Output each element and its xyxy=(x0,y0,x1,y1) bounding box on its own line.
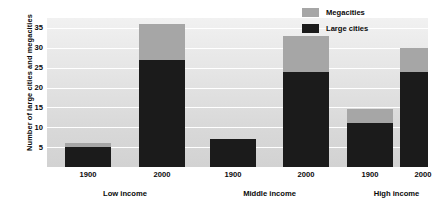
bar-segment-megacities-high-2000 xyxy=(400,48,428,72)
y-tick-35: 35 xyxy=(3,23,43,32)
x-tick-high-2000: 2000 xyxy=(398,170,436,179)
legend: Megacities Large cities xyxy=(302,8,430,40)
x-group-low-income: Low income xyxy=(80,189,170,198)
bar-segment-large-cities-low-2000 xyxy=(139,60,185,167)
bar-middle-2000 xyxy=(283,36,329,167)
bar-middle-1900 xyxy=(210,139,256,167)
legend-swatch-large-cities-icon xyxy=(302,24,319,33)
gridline-30 xyxy=(47,48,428,49)
bar-low-1900 xyxy=(65,143,111,167)
legend-item-megacities: Megacities xyxy=(302,8,430,17)
stacked-bar-chart: Number of large cities and megacities 35… xyxy=(0,0,436,211)
gridline-25 xyxy=(47,68,428,69)
bar-segment-large-cities-high-1900 xyxy=(347,123,393,167)
bar-segment-megacities-low-2000 xyxy=(139,24,185,60)
y-tick-5: 5 xyxy=(3,143,43,152)
x-axis-labels: 1900 2000 1900 2000 1900 2000 Low income… xyxy=(47,167,428,211)
y-axis-tick-labels: 35 30 25 20 15 10 5 xyxy=(0,18,45,167)
y-tick-10: 10 xyxy=(3,123,43,132)
y-tick-30: 30 xyxy=(3,43,43,52)
y-tick-20: 20 xyxy=(3,83,43,92)
bar-high-2000 xyxy=(400,48,428,167)
bar-segment-large-cities-middle-2000 xyxy=(283,72,329,167)
bar-segment-large-cities-middle-1900 xyxy=(210,139,256,167)
x-tick-middle-2000: 2000 xyxy=(281,170,331,179)
bar-segment-megacities-middle-2000 xyxy=(283,36,329,72)
x-tick-high-1900: 1900 xyxy=(345,170,395,179)
x-tick-middle-1900: 1900 xyxy=(208,170,258,179)
x-tick-low-1900: 1900 xyxy=(63,170,113,179)
bar-segment-large-cities-low-1900 xyxy=(65,147,111,167)
y-tick-25: 25 xyxy=(3,63,43,72)
x-group-high-income: High income xyxy=(352,189,436,198)
legend-swatch-megacities-icon xyxy=(302,8,319,17)
gridline-15 xyxy=(47,107,428,108)
plot-area xyxy=(47,18,428,167)
x-group-middle-income: Middle income xyxy=(225,189,315,198)
legend-item-large-cities: Large cities xyxy=(302,24,430,33)
bar-high-1900 xyxy=(347,109,393,167)
bar-segment-megacities-high-1900 xyxy=(347,109,393,123)
x-tick-low-2000: 2000 xyxy=(137,170,187,179)
bar-low-2000 xyxy=(139,24,185,167)
legend-label-megacities: Megacities xyxy=(326,8,365,17)
bar-segment-large-cities-high-2000 xyxy=(400,72,428,167)
gridline-20 xyxy=(47,88,428,89)
y-tick-15: 15 xyxy=(3,103,43,112)
legend-label-large-cities: Large cities xyxy=(326,24,368,33)
